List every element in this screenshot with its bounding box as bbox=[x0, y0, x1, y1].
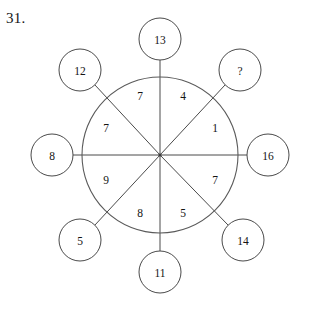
node-left-label: 8 bbox=[49, 150, 55, 162]
node-top-right-label: ? bbox=[237, 65, 242, 77]
sector-value-inner-n-ne: 4 bbox=[180, 90, 186, 102]
node-right-label: 16 bbox=[262, 150, 274, 162]
sector-value-inner-ne-e: 1 bbox=[212, 122, 218, 134]
node-top-left-label: 12 bbox=[74, 65, 86, 77]
connector-node-top-right bbox=[160, 85, 225, 155]
puzzle-figure: 31. 41758977 13?1614115812 bbox=[0, 0, 316, 315]
sector-value-inner-sw-w: 9 bbox=[103, 174, 109, 186]
sector-value-inner-e-se: 7 bbox=[212, 174, 218, 186]
node-bottom-label: 11 bbox=[154, 267, 165, 279]
sector-value-inner-s-sw: 8 bbox=[137, 207, 143, 219]
sector-value-inner-se-s: 5 bbox=[180, 207, 186, 219]
connector-node-bottom-right bbox=[160, 155, 228, 225]
connector-node-bottom-left bbox=[95, 155, 160, 225]
connector-node-top-left bbox=[95, 85, 160, 155]
sector-value-inner-w-nw: 7 bbox=[103, 122, 109, 134]
node-bottom-left-label: 5 bbox=[77, 235, 83, 247]
sector-value-inner-nw-n: 7 bbox=[137, 90, 143, 102]
wheel-diagram: 41758977 13?1614115812 bbox=[0, 0, 316, 315]
node-top-label: 13 bbox=[154, 34, 166, 46]
node-bottom-right-label: 14 bbox=[237, 235, 249, 247]
wheel-hub-dot bbox=[158, 153, 161, 156]
